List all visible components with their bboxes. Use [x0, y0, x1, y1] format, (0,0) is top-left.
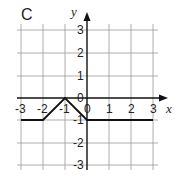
svg-text:1: 1	[106, 102, 113, 116]
svg-text:-2: -2	[37, 102, 48, 116]
x-axis-label: x	[165, 101, 172, 116]
svg-text:2: 2	[128, 102, 135, 116]
y-axis-arrow-icon	[84, 12, 91, 21]
svg-text:-3: -3	[15, 102, 26, 116]
svg-text:3: 3	[77, 23, 84, 37]
svg-text:0: 0	[84, 102, 91, 116]
svg-text:-2: -2	[73, 136, 84, 150]
axes	[17, 20, 162, 170]
coordinate-graph: C y x -3 -2 -1 0 1 2 3 3 2 1 0 -1 -2 -3	[0, 0, 179, 181]
svg-text:-3: -3	[73, 158, 84, 172]
svg-text:0: 0	[77, 91, 84, 105]
svg-text:2: 2	[77, 46, 84, 60]
svg-text:-1: -1	[73, 113, 84, 127]
svg-text:3: 3	[150, 102, 157, 116]
panel-label: C	[21, 6, 33, 23]
y-axis-label: y	[69, 4, 77, 19]
svg-text:1: 1	[77, 69, 84, 83]
x-tick-labels: -3 -2 -1 0 1 2 3	[15, 102, 157, 116]
svg-text:-1: -1	[59, 102, 70, 116]
